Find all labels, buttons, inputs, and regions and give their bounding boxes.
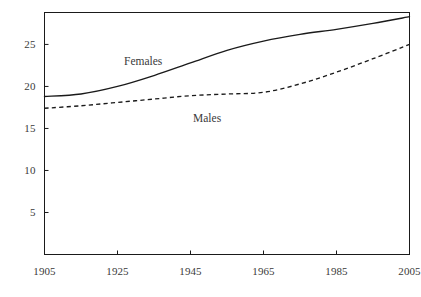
x-axis-tick-label: 1965 [252,266,274,277]
series-label-males: Males [193,113,221,125]
x-axis-tick-label: 1905 [33,266,55,277]
x-axis-tick-label: 1945 [179,266,201,277]
x-axis-tick-label: 1925 [106,266,128,277]
y-axis-tick-label: 20 [0,81,36,92]
y-axis-tick-label: 10 [0,165,36,176]
x-axis-tick-label: 1985 [325,266,347,277]
series-label-females: Females [124,56,162,68]
y-axis-tick-label: 5 [0,207,36,218]
x-axis-tick-label: 2005 [398,266,420,277]
y-axis-tick-label: 15 [0,123,36,134]
y-axis-tick-label: 25 [0,39,36,50]
